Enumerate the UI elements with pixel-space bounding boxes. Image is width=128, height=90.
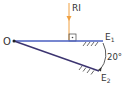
angle-label: 20° [107, 52, 122, 62]
mirror-e1-hatching [83, 42, 98, 46]
mirror2-label: E2 [101, 73, 111, 84]
mirror1-label: E1 [105, 32, 115, 43]
right-angle-dot [72, 37, 74, 39]
origin-point [13, 40, 16, 43]
ray-label: RI [72, 3, 81, 13]
origin-label: O [3, 36, 11, 47]
mirror-diagram: RI O 20° E1 E2 [0, 0, 128, 90]
arrow-down-icon [67, 16, 72, 21]
mirror-e2 [14, 41, 99, 71]
angle-arc [100, 43, 106, 70]
